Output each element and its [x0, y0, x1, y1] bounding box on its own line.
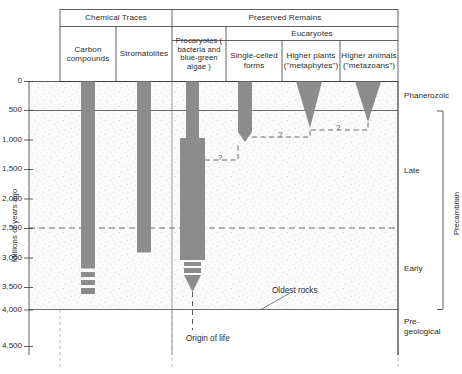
y-tick-500: 500	[0, 105, 22, 114]
bar-stromatolites	[137, 82, 151, 253]
header-col-higher-plants: Higher plants ("metaphytes")	[282, 40, 340, 81]
y-tick-2500: 2,500	[0, 223, 22, 232]
era-label-pregeological-line1: Pre-	[404, 317, 419, 326]
bar-carbon-compounds	[81, 82, 95, 295]
y-tick-0: 0	[0, 76, 22, 85]
header-col-single-celled-forms: Single-celled forms	[226, 40, 282, 81]
era-label-pregeological-line2: geological	[404, 327, 440, 336]
uncertainty-marker-1: ?	[218, 153, 222, 162]
header-col-carbon-compounds: Carbon compounds	[60, 27, 116, 81]
header-col-stromatolites: Stromatolites	[116, 27, 172, 81]
header-col-procaryotes: Procaryotes ( bacteria and blue-green al…	[172, 27, 226, 81]
y-tick-3500: 3,500	[0, 282, 22, 291]
era-label-phanerozoic: Phanerozoic	[404, 91, 449, 100]
annotation-origin-of-life: Origin of life	[186, 334, 230, 343]
y-tick-4000: 4,000	[0, 305, 22, 314]
y-tick-4500: 4,500	[0, 341, 22, 350]
era-label-late: Late	[404, 166, 420, 175]
uncertainty-marker-3: ?	[336, 123, 340, 132]
bar-single-celled-forms	[238, 82, 252, 143]
y-tick-1500: 1,500	[0, 164, 22, 173]
header-group-chemical-traces: Chemical Traces	[60, 10, 172, 26]
annotation-oldest-rocks: Oldest rocks	[272, 286, 318, 295]
era-label-precambrian: Precambrian	[452, 192, 461, 235]
y-tick-2000: 2,000	[0, 194, 22, 203]
y-tick-1000: 1,000	[0, 135, 22, 144]
header-col-higher-animals: Higher animals ("metazoans")	[340, 40, 398, 81]
uncertainty-marker-2: ?	[278, 130, 282, 139]
precambrian-bracket	[437, 111, 443, 310]
header-group-eucaryotes: Eucaryotes	[226, 27, 398, 40]
y-tick-3000: 3,000	[0, 253, 22, 262]
header-group-preserved-remains: Preserved Remains	[172, 10, 398, 26]
era-label-early: Early	[404, 264, 422, 273]
